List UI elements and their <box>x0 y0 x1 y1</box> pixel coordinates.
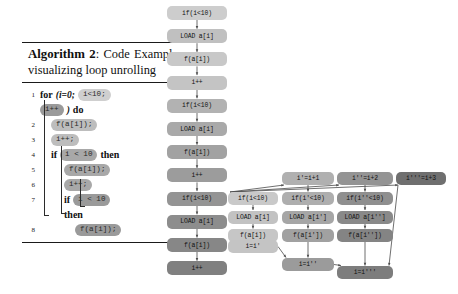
node-label: i''=i+2 <box>352 175 378 182</box>
dag-node: if(i''<10) <box>337 192 393 205</box>
dag-node: if(i<10) <box>228 192 278 205</box>
node-label: i=i'' <box>299 261 318 268</box>
node-label: i=i''' <box>354 269 376 276</box>
node-label: f(a[i']) <box>293 232 323 239</box>
dag-node: f(a[i'']) <box>337 229 393 242</box>
dag-node: if(i'<10) <box>282 192 334 205</box>
node-label: if(i''<10) <box>346 195 383 202</box>
dag-header-node: i''=i+2 <box>337 172 393 185</box>
dag-merge-node: i=i''' <box>337 266 393 279</box>
node-label: f(a[i]) <box>240 232 266 239</box>
dag-header-node: i'''=i+3 <box>396 172 446 185</box>
node-label: f(a[i'']) <box>348 232 382 239</box>
node-label: i=i' <box>246 243 261 250</box>
node-label: LOAD a[i] <box>236 214 270 221</box>
dag-node: LOAD a[i''] <box>337 211 393 224</box>
dag-node: f(a[i']) <box>282 229 334 242</box>
node-label: if(i'<10) <box>291 195 325 202</box>
dag-node: LOAD a[i] <box>228 211 278 224</box>
dag-merge-node: i=i' <box>228 240 278 253</box>
node-label: i'''=i+3 <box>406 175 436 182</box>
node-label: if(i<10) <box>238 195 268 202</box>
dag-merge-node: i=i'' <box>282 258 334 271</box>
node-label: LOAD a[i''] <box>344 214 385 221</box>
dag-node: LOAD a[i'] <box>282 211 334 224</box>
dag-header-node: i'=i+1 <box>282 172 334 185</box>
node-label: LOAD a[i'] <box>289 214 326 221</box>
parallel-dag-panel: if(i<10)LOAD a[i]f(a[i])i=i'i'=i+1if(i'<… <box>0 0 458 294</box>
node-label: i'=i+1 <box>297 175 319 182</box>
